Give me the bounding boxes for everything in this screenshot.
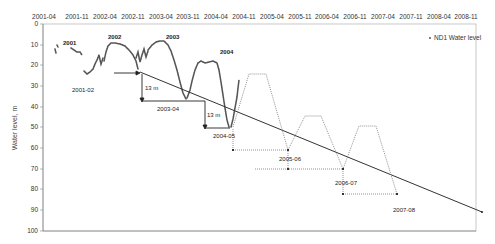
x-tick: 2004-04 xyxy=(204,13,228,20)
y-tick: 30 xyxy=(31,82,39,89)
x-tick: 2003-11 xyxy=(176,13,200,20)
legend: ND1 Water level xyxy=(429,34,482,41)
legend-label: ND1 Water level xyxy=(434,34,482,41)
y-tick: 0 xyxy=(34,20,38,27)
y-tick: 60 xyxy=(31,144,39,151)
y-tick: 10 xyxy=(31,41,39,48)
plot-area xyxy=(43,24,476,231)
label-period-2003-04: 2003-04 xyxy=(157,106,180,112)
x-tick: 2001-11 xyxy=(65,13,89,20)
label-year-2002: 2002 xyxy=(108,34,122,40)
legend-marker xyxy=(429,37,431,39)
x-tick: 2003-04 xyxy=(149,13,173,20)
label-drop-13m-1: 13 m xyxy=(145,85,158,91)
x-tick: 2007-11 xyxy=(399,13,423,20)
x-tick: 2002-11 xyxy=(121,13,145,20)
x-tick-labels: 2001-04 2001-11 2002-04 2002-11 2003-04 … xyxy=(32,13,478,20)
label-period-2007-08: 2007-08 xyxy=(393,207,416,213)
x-tick: 2001-04 xyxy=(32,13,56,20)
x-tick: 2007-04 xyxy=(371,13,395,20)
y-tick: 100 xyxy=(27,227,38,234)
x-tick: 2008-11 xyxy=(454,13,478,20)
y-tick-labels: 0 10 20 30 40 50 60 70 80 90 100 xyxy=(27,20,38,234)
trend-end-marker xyxy=(481,211,483,213)
y-tick: 90 xyxy=(31,206,39,213)
y-ticks xyxy=(40,24,43,231)
label-year-2004: 2004 xyxy=(220,49,234,55)
x-tick: 2006-04 xyxy=(315,13,339,20)
x-tick: 2008-04 xyxy=(427,13,451,20)
label-year-2003: 2003 xyxy=(166,34,180,40)
x-tick: 2005-04 xyxy=(260,13,284,20)
label-period-2006-07: 2006-07 xyxy=(335,180,358,186)
y-tick: 70 xyxy=(31,165,39,172)
x-tick: 2004-11 xyxy=(232,13,256,20)
y-tick: 50 xyxy=(31,123,39,130)
y-tick: 20 xyxy=(31,61,39,68)
x-tick: 2005-11 xyxy=(288,13,312,20)
label-period-2004-05: 2004-05 xyxy=(213,133,236,139)
y-axis-label: Water level, m xyxy=(11,106,18,151)
x-tick: 2006-11 xyxy=(343,13,367,20)
label-period-2005-06: 2005-06 xyxy=(279,156,302,162)
water-level-chart: 2001-04 2001-11 2002-04 2002-11 2003-04 … xyxy=(0,0,495,244)
label-drop-13m-2: 13 m xyxy=(207,112,220,118)
x-tick: 2002-04 xyxy=(93,13,117,20)
label-year-2001: 2001 xyxy=(63,40,77,46)
label-period-2001-02: 2001-02 xyxy=(72,87,95,93)
y-tick: 40 xyxy=(31,103,39,110)
y-tick: 80 xyxy=(31,185,39,192)
